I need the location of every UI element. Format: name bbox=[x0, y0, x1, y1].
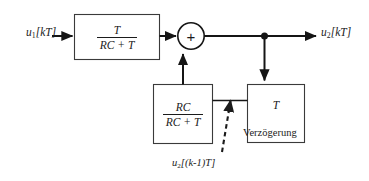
forward-gain-numerator: T bbox=[111, 24, 123, 37]
feedback-signal-argument: [(k-1)T] bbox=[181, 157, 215, 168]
feedback-gain-numerator: RC bbox=[173, 101, 194, 114]
output-argument: [kT] bbox=[331, 26, 351, 38]
feedback-signal-label: u2[(k-1)T] bbox=[172, 158, 215, 170]
output-signal-label: u2[kT] bbox=[321, 27, 351, 40]
block-diagram-canvas: u1[kT] u2[kT] T RC + T RC RC + T T + Ver… bbox=[0, 0, 369, 181]
feedback-signal-dashed-arrow bbox=[222, 101, 231, 152]
feedback-gain-label: RC RC + T bbox=[153, 84, 213, 144]
delay-block-letter: T bbox=[273, 99, 279, 111]
summation-plus-sign: + bbox=[180, 25, 202, 47]
delay-annotation-label: Verzögerung bbox=[243, 128, 297, 139]
input-argument: [kT] bbox=[36, 26, 56, 38]
delay-block-label: T bbox=[247, 84, 305, 126]
input-signal-label: u1[kT] bbox=[26, 27, 56, 40]
forward-gain-label: T RC + T bbox=[74, 14, 160, 60]
feedback-gain-denominator: RC + T bbox=[163, 115, 204, 128]
forward-gain-denominator: RC + T bbox=[97, 38, 138, 51]
